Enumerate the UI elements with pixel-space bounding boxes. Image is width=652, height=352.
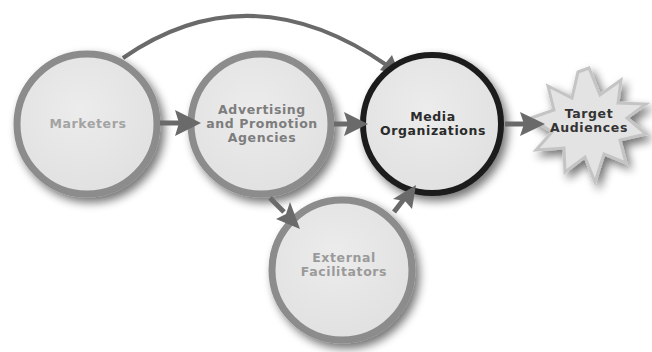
label-agencies: Advertising and Promotion Agencies bbox=[206, 103, 318, 145]
label-marketers: Marketers bbox=[50, 117, 127, 131]
label-media-organizations: Media Organizations bbox=[380, 110, 486, 138]
diagram-canvas: Marketers Advertising and Promotion Agen… bbox=[0, 0, 652, 352]
diagram-svg bbox=[0, 0, 652, 352]
label-external-facilitators: External Facilitators bbox=[301, 251, 387, 279]
label-target-audiences: Target Audiences bbox=[550, 107, 628, 135]
